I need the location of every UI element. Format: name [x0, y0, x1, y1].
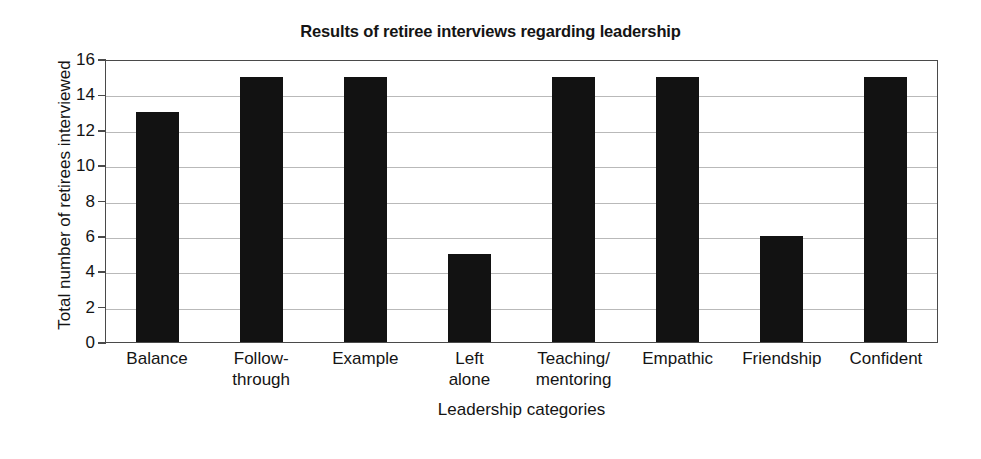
x-tick-label-line: Confident	[834, 348, 938, 369]
x-tick-label-line: Left	[417, 348, 521, 369]
x-tick-label: Confident	[834, 348, 938, 390]
y-tick-label-0: 0	[25, 333, 95, 353]
x-tick-label-line: through	[209, 369, 313, 390]
x-axis-tick-labels: BalanceFollow-throughExampleLeftaloneTea…	[105, 348, 938, 390]
chart-title: Results of retiree interviews regarding …	[0, 22, 981, 41]
y-tick-mark-0	[98, 342, 106, 344]
bar	[552, 77, 595, 342]
x-tick-label-line: Follow-	[209, 348, 313, 369]
bar	[448, 254, 491, 342]
y-tick-mark-4	[98, 271, 106, 273]
bar	[344, 77, 387, 342]
bar-slot	[314, 61, 418, 342]
x-axis-title: Leadership categories	[105, 400, 938, 420]
y-tick-label-14: 14	[25, 85, 95, 105]
bar-chart-figure: Results of retiree interviews regarding …	[0, 0, 981, 459]
y-tick-mark-10	[98, 165, 106, 167]
x-tick-label: Teaching/mentoring	[522, 348, 626, 390]
y-tick-label-6: 6	[25, 227, 95, 247]
x-tick-label: Friendship	[730, 348, 834, 390]
bar-slot	[625, 61, 729, 342]
y-tick-label-2: 2	[25, 298, 95, 318]
y-tick-mark-8	[98, 201, 106, 203]
y-tick-label-16: 16	[25, 50, 95, 70]
x-tick-label-line: Teaching/	[522, 348, 626, 369]
x-tick-label: Example	[313, 348, 417, 390]
y-tick-mark-6	[98, 236, 106, 238]
y-tick-mark-12	[98, 130, 106, 132]
bar	[136, 112, 179, 342]
bar-series	[106, 61, 937, 342]
plot-area	[105, 60, 938, 343]
bar	[864, 77, 907, 342]
y-tick-label-12: 12	[25, 121, 95, 141]
bar-slot	[833, 61, 937, 342]
x-tick-label: Leftalone	[417, 348, 521, 390]
bar	[240, 77, 283, 342]
bar	[760, 236, 803, 342]
x-tick-label-line: Example	[313, 348, 417, 369]
x-tick-label: Balance	[105, 348, 209, 390]
x-tick-label-line: Balance	[105, 348, 209, 369]
bar-slot	[106, 61, 210, 342]
bar	[656, 77, 699, 342]
y-tick-mark-2	[98, 307, 106, 309]
bar-slot	[729, 61, 833, 342]
x-tick-label: Follow-through	[209, 348, 313, 390]
x-tick-label-line: Friendship	[730, 348, 834, 369]
y-tick-mark-16	[98, 59, 106, 61]
x-tick-label: Empathic	[626, 348, 730, 390]
y-tick-label-4: 4	[25, 262, 95, 282]
bar-slot	[210, 61, 314, 342]
bar-slot	[418, 61, 522, 342]
y-tick-label-10: 10	[25, 156, 95, 176]
y-tick-mark-14	[98, 95, 106, 97]
x-tick-label-line: alone	[417, 369, 521, 390]
bar-slot	[522, 61, 626, 342]
y-tick-label-8: 8	[25, 192, 95, 212]
x-tick-label-line: Empathic	[626, 348, 730, 369]
x-tick-label-line: mentoring	[522, 369, 626, 390]
